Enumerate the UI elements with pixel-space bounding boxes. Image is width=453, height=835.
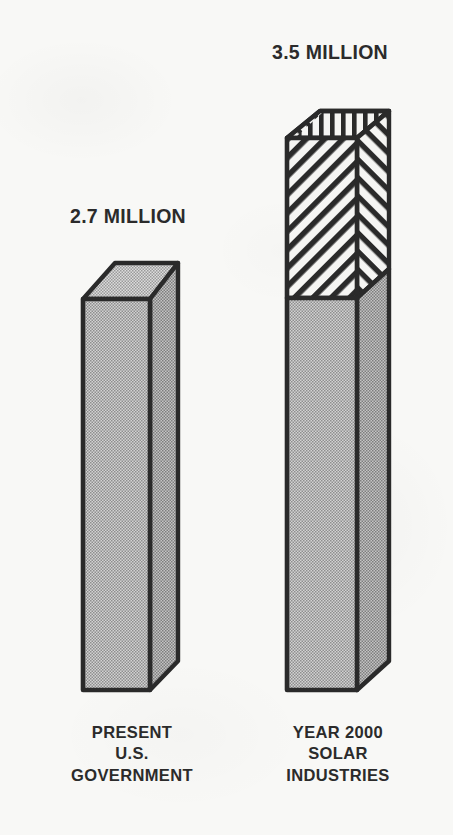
category-left-line2: U.S.	[32, 743, 232, 764]
bar-chart-figure: 2.7 MILLION 3.5 MILLION PRESENT U.S. GOV…	[0, 0, 453, 835]
category-right-line1: YEAR 2000	[238, 722, 438, 743]
value-label-right: 3.5 MILLION	[272, 41, 388, 64]
category-right-line2: SOLAR	[238, 743, 438, 764]
bar-right-upper-front-face	[287, 138, 357, 298]
category-left-line1: PRESENT	[32, 722, 232, 743]
category-label-left: PRESENT U.S. GOVERNMENT	[32, 722, 232, 786]
bar-left-side-face	[150, 263, 178, 690]
bar-right-lower-side-face	[357, 269, 389, 690]
category-label-right: YEAR 2000 SOLAR INDUSTRIES	[238, 722, 438, 786]
bar-right-lower-front-face	[287, 298, 357, 690]
category-right-line3: INDUSTRIES	[238, 765, 438, 786]
value-label-left: 2.7 MILLION	[70, 205, 186, 228]
bar-left-present-us-government	[83, 263, 178, 690]
bar-right-upper-side-face	[357, 111, 389, 298]
bar-chart-svg	[0, 0, 453, 835]
category-left-line3: GOVERNMENT	[32, 765, 232, 786]
bar-right-year-2000-solar-industries	[287, 111, 389, 690]
bar-left-front-face	[83, 299, 150, 690]
